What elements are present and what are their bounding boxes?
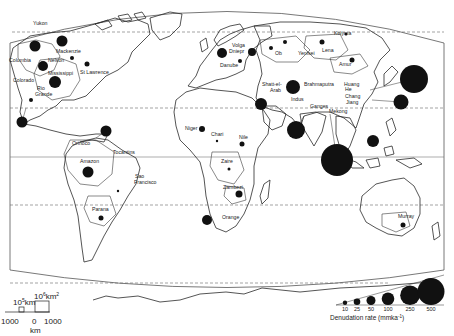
coast-new-zealand — [432, 222, 440, 240]
river-label: He — [345, 86, 352, 92]
coast-greenland — [150, 12, 182, 40]
coast-arctic-islands — [95, 12, 146, 30]
river-label: Ob — [275, 50, 282, 56]
legend-circle-10 — [343, 301, 347, 305]
scale-small-area-label: 105km — [13, 297, 36, 307]
legend-title: Denudation rate (mmka-1) — [330, 314, 404, 322]
coast-central-america — [24, 124, 108, 142]
basin-circle-st-lawrence — [85, 62, 90, 67]
river-label: Chari — [211, 131, 223, 137]
legend-value-label: 100 — [383, 306, 392, 312]
river-label: Danube — [220, 62, 238, 68]
coast-madagascar — [260, 180, 270, 204]
legend-value-label: 50 — [368, 306, 374, 312]
leader-lines — [22, 79, 414, 160]
river-label: Mekong — [329, 108, 348, 114]
coast-japan — [384, 66, 398, 86]
river-label: Amur — [339, 61, 352, 67]
scale-tick-zero: 0 — [32, 317, 37, 326]
basin-circle-don — [248, 48, 256, 56]
river-label: Ganges — [310, 103, 329, 109]
river-label: Brahmaputra — [304, 81, 334, 87]
legend-circle-250 — [400, 285, 420, 305]
river-label: Yukon — [33, 20, 48, 26]
basin-circle-magdalena — [101, 126, 112, 137]
river-label: Zambezi — [223, 184, 243, 190]
basin-circle-chang-jiang — [394, 95, 409, 110]
legend-value-label: 25 — [354, 306, 360, 312]
basin-circle-yukon — [30, 41, 41, 52]
basin-circle-rhine — [217, 48, 227, 58]
scale-square-small — [19, 307, 24, 312]
coast-europe — [188, 26, 272, 88]
basin-circle-rio-grande — [29, 98, 33, 102]
basin-circle-parana — [99, 216, 104, 221]
scale-bar: 106km2 105km 1000 0 1000 km — [1, 291, 62, 335]
basin-circle-zambezi — [236, 191, 243, 198]
river-label: Orinoco — [72, 140, 90, 146]
basin-circle-nile — [240, 142, 245, 147]
legend-value-label: 250 — [405, 306, 414, 312]
river-label: Kolyma — [334, 30, 351, 36]
basin-circle-huang-he — [400, 65, 428, 93]
legend-circle-100 — [382, 292, 395, 305]
basin-circle-yenisei — [283, 40, 287, 44]
river-label: Colorado — [13, 77, 34, 83]
coast-australia — [360, 178, 420, 236]
scale-unit: km — [30, 326, 41, 335]
legend-value-label: 500 — [426, 306, 435, 312]
river-label: St Lawrence — [80, 69, 109, 75]
basin-circle-hudson-region — [70, 56, 74, 60]
river-label: Tocantins — [113, 149, 135, 155]
legend-circle-50 — [367, 296, 376, 305]
basin-circle-mississippi — [49, 76, 61, 88]
river-label: Mackenzie — [56, 48, 81, 54]
basin-circle-indus — [287, 121, 305, 139]
coast-britain — [200, 38, 208, 52]
river-label: Columbia — [9, 57, 31, 63]
basin-circle-shatt-el-arab — [286, 80, 300, 94]
basin-circle-sao-francisco — [117, 190, 119, 192]
river-label: Nelson — [48, 57, 64, 63]
basin-circle-murray — [401, 223, 406, 228]
river-label: Nile — [239, 134, 248, 140]
river-label: Arab — [270, 87, 281, 93]
river-label: Indus — [291, 96, 304, 102]
basin-circle-niger — [199, 126, 205, 132]
river-label: Zaire — [221, 158, 233, 164]
river-label: Amazon — [80, 158, 99, 164]
legend-circle-500 — [418, 278, 445, 305]
basin-circle-zaire — [228, 168, 231, 171]
river-label: Francisco — [134, 179, 157, 185]
basin-circle-mekong — [367, 135, 379, 147]
basin-circle-arabian — [255, 98, 267, 110]
coast-philippines — [386, 118, 396, 136]
basin-circle-chari — [216, 140, 218, 142]
basin-circle-ob — [269, 46, 273, 50]
coast-arabia — [262, 106, 286, 130]
basin-circle-mackenzie — [57, 36, 68, 47]
basin-circle-lena — [320, 40, 325, 45]
coast-asia — [254, 22, 390, 128]
legend-value-label: 10 — [342, 306, 348, 312]
river-label: Lena — [322, 47, 334, 53]
scale-large-area-label: 106km2 — [34, 291, 59, 301]
river-label: Niger — [185, 125, 198, 131]
river-label: Yenisei — [298, 50, 315, 56]
world-map: YukonMackenzieColumbiaNelsonMississippiS… — [0, 0, 454, 336]
basin-circle-nelson — [38, 61, 48, 71]
basin-circle-central-america — [17, 117, 28, 128]
river-label: Dniepr — [229, 48, 245, 54]
scale-tick-right: 1000 — [44, 317, 62, 326]
river-label: Grande — [35, 91, 52, 97]
basin-circle-danube — [238, 59, 242, 63]
legend-circle-25 — [354, 298, 361, 305]
river-label: Jiang — [346, 99, 359, 105]
river-label: Parana — [92, 206, 109, 212]
scale-square-large — [35, 301, 49, 312]
coast-south-america — [64, 138, 140, 262]
basin-circle-ganges — [321, 144, 353, 176]
river-label: Mississippi — [48, 70, 73, 76]
river-label: Murray — [398, 213, 415, 219]
basin-circle-amazon — [83, 167, 94, 178]
